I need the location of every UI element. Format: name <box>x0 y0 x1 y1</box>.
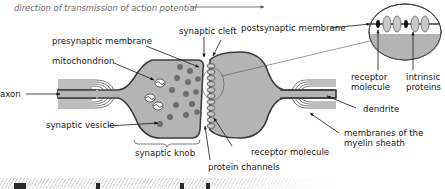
partial-heading-glyph <box>180 183 184 189</box>
membrane-inset <box>369 4 441 60</box>
synaptic-knob-bracket <box>134 140 200 147</box>
partial-heading-glyph <box>14 183 26 189</box>
label-inset-intrinsic-line1: intrinsic <box>406 72 440 82</box>
postsynaptic-shape <box>210 52 336 138</box>
label-myelin-line2: myelin sheath <box>344 138 405 148</box>
label-inset-receptor-line1: receptor <box>351 72 388 82</box>
label-synaptic-vesicle: synaptic vesicle <box>46 120 115 130</box>
label-inset-receptor-line2: molecule <box>351 82 390 92</box>
label-dendrite: dendrite <box>363 104 399 114</box>
label-synaptic-knob: synaptic knob <box>135 148 195 158</box>
label-myelin-line1: membranes of the <box>344 128 423 138</box>
label-inset-intrinsic-line2: proteins <box>406 82 442 92</box>
label-synaptic-cleft: synaptic cleft <box>179 26 237 36</box>
partial-heading-glyph <box>206 183 210 189</box>
synapse-diagram: direction of transmission of action pote… <box>0 0 445 189</box>
direction-label: direction of transmission of action pote… <box>14 3 198 13</box>
direction-arrow: direction of transmission of action pote… <box>14 3 264 13</box>
partial-heading-glyph <box>96 183 100 189</box>
label-axon: axon <box>0 89 21 99</box>
label-presynaptic-membrane: presynaptic membrane <box>52 36 152 46</box>
label-protein-channels: protein channels <box>208 162 280 172</box>
label-receptor-molecule: receptor molecule <box>251 147 329 157</box>
protein-channels <box>207 64 215 129</box>
inset-receptor-1 <box>376 20 380 28</box>
label-postsynaptic-membrane: postsynaptic membrane <box>241 23 346 33</box>
inset-receptor-2 <box>404 20 408 28</box>
hatched-strip <box>0 178 445 189</box>
label-mitochondrion: mitochondrion <box>52 56 114 66</box>
